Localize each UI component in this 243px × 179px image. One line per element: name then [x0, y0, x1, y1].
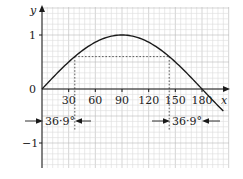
y-tick-label-0: 0: [29, 83, 36, 96]
x-tick-label-150: 150: [165, 94, 186, 107]
span-left-label: 36·9°: [45, 115, 75, 128]
x-tick-label-90: 90: [115, 94, 129, 107]
y-axis-label: y: [29, 4, 37, 17]
span-right-label: 36·9°: [172, 115, 202, 128]
sine-chart: y 1 0 −1 30 60 90 120 150 180 x 36·9° 36…: [0, 0, 243, 179]
x-tick-label-180: 180: [192, 94, 213, 107]
x-tick-label-30: 30: [62, 94, 76, 107]
y-axis-arrow-icon: [39, 5, 45, 12]
y-tick-label-1: 1: [29, 29, 36, 42]
x-axis-label: x: [221, 94, 228, 107]
span-left: 36·9°: [25, 115, 91, 128]
y-tick-label-neg1: −1: [22, 137, 38, 150]
x-tick-label-120: 120: [138, 94, 159, 107]
x-tick-label-60: 60: [88, 94, 102, 107]
